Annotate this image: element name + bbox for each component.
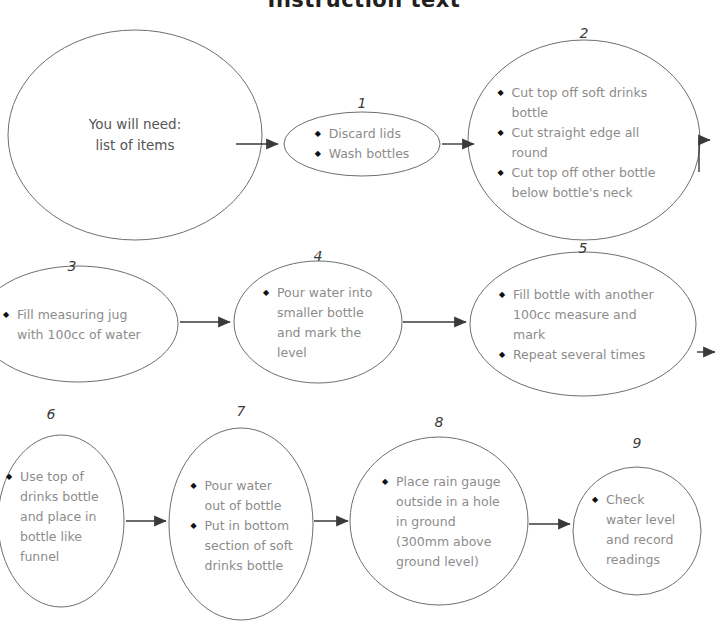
node-2-number: 2: [569, 25, 599, 41]
node-3-bullets: Fill measuring jug with 100cc of water: [3, 305, 153, 345]
list-item: Fill bottle with another 100cc measure a…: [499, 285, 669, 345]
node-6-bullets: Use top of drinks bottle and place in bo…: [6, 467, 106, 567]
list-item: Repeat several times: [499, 345, 669, 365]
node-2-bullets: Cut top off soft drinks bottle Cut strai…: [498, 83, 673, 203]
node-2[interactable]: Cut top off soft drinks bottle Cut strai…: [490, 60, 680, 226]
node-start-line-1: You will need:: [89, 114, 181, 135]
list-item: Pour water into smaller bottle and mark …: [263, 283, 383, 363]
node-9[interactable]: Check water level and record readings: [584, 482, 692, 578]
node-9-bullets: Check water level and record readings: [592, 490, 684, 570]
node-6-number: 6: [36, 406, 66, 422]
node-8-bullets: Place rain gauge outside in a hole in gr…: [382, 472, 502, 572]
node-8[interactable]: Place rain gauge outside in a hole in gr…: [366, 455, 518, 589]
list-item: Put in bottom section of soft drinks bot…: [191, 516, 294, 576]
node-4[interactable]: Pour water into smaller bottle and mark …: [248, 280, 398, 366]
node-5[interactable]: Fill bottle with another 100cc measure a…: [484, 275, 684, 375]
list-item: Fill measuring jug with 100cc of water: [3, 305, 153, 345]
page-title: Instruction text: [0, 0, 728, 12]
flowchart-canvas: Instruction text: [0, 0, 728, 638]
node-start-line-2: list of items: [89, 135, 181, 156]
list-item: Check water level and record readings: [592, 490, 684, 570]
node-7-bullets: Pour water out of bottle Put in bottom s…: [191, 476, 294, 576]
node-4-bullets: Pour water into smaller bottle and mark …: [263, 283, 383, 363]
list-item: Place rain gauge outside in a hole in gr…: [382, 472, 502, 572]
node-3[interactable]: Fill measuring jug with 100cc of water: [0, 290, 158, 360]
node-7-number: 7: [226, 403, 256, 419]
node-5-bullets: Fill bottle with another 100cc measure a…: [499, 285, 669, 365]
node-7[interactable]: Pour water out of bottle Put in bottom s…: [182, 448, 302, 603]
node-start[interactable]: You will need: list of items: [8, 30, 262, 240]
list-item: Pour water out of bottle: [191, 476, 294, 516]
node-1-number: 1: [347, 95, 377, 111]
list-item: Wash bottles: [315, 144, 410, 164]
node-8-number: 8: [424, 414, 454, 430]
node-6[interactable]: Use top of drinks bottle and place in bo…: [0, 452, 114, 582]
list-item: Discard lids: [315, 124, 410, 144]
node-1[interactable]: Discard lids Wash bottles: [284, 112, 440, 176]
list-item: Cut top off other bottle below bottle's …: [498, 163, 673, 203]
list-item: Cut top off soft drinks bottle: [498, 83, 673, 123]
list-item: Use top of drinks bottle and place in bo…: [6, 467, 106, 567]
node-9-number: 9: [622, 435, 652, 451]
node-3-number: 3: [57, 258, 87, 274]
node-start-text: You will need: list of items: [89, 114, 181, 156]
list-item: Cut straight edge all round: [498, 123, 673, 163]
node-5-number: 5: [568, 240, 598, 256]
node-4-number: 4: [303, 248, 333, 264]
node-1-bullets: Discard lids Wash bottles: [315, 124, 410, 164]
